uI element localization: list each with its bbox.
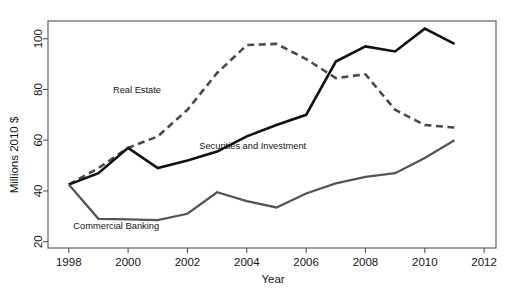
series-line-securities-and-investment bbox=[69, 29, 455, 185]
x-axis-tick-label: 1998 bbox=[56, 256, 82, 268]
y-axis-tick-label: 60 bbox=[32, 134, 44, 147]
series-label-real-estate: Real Estate bbox=[113, 85, 161, 95]
series-label-commercial-banking: Commercial Banking bbox=[73, 221, 159, 231]
x-axis-tick-label: 2006 bbox=[293, 256, 319, 268]
plot-frame bbox=[48, 21, 496, 248]
series-labels-layer: Real EstateSecurities and InvestmentComm… bbox=[73, 85, 306, 231]
y-axis-tick-label: 40 bbox=[32, 185, 44, 198]
y-axis-tick-label: 80 bbox=[32, 83, 44, 96]
series-label-securities-and-investment: Securities and Investment bbox=[199, 141, 306, 151]
line-chart: 2040608010019982000200220042006200820102… bbox=[0, 0, 506, 295]
x-axis-tick-label: 2008 bbox=[353, 256, 379, 268]
y-axis-title: Millions 2010 $ bbox=[8, 116, 20, 193]
x-axis-tick-label: 2012 bbox=[471, 256, 497, 268]
x-axis-tick-label: 2004 bbox=[234, 256, 260, 268]
x-axis-tick-label: 2000 bbox=[115, 256, 141, 268]
y-axis-tick-label: 100 bbox=[32, 29, 44, 48]
x-axis-tick-label: 2010 bbox=[412, 256, 438, 268]
series-layer bbox=[69, 29, 455, 220]
series-line-commercial-banking bbox=[69, 140, 455, 220]
x-axis-title: Year bbox=[261, 273, 284, 285]
series-line-real-estate bbox=[69, 44, 455, 185]
y-axis-tick-label: 20 bbox=[32, 235, 44, 248]
x-axis-tick-label: 2002 bbox=[175, 256, 201, 268]
chart-canvas: 2040608010019982000200220042006200820102… bbox=[0, 0, 506, 295]
